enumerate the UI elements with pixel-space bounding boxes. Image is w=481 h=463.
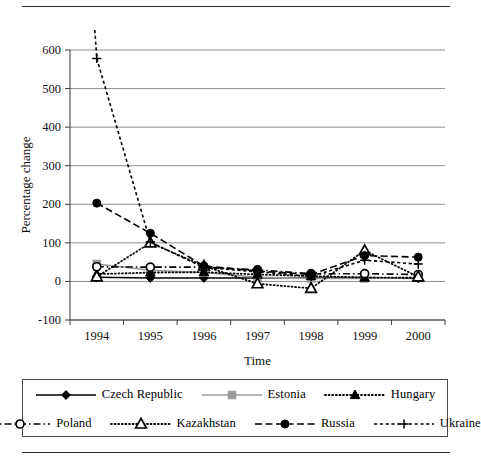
offscale-entry-segments [95,30,97,58]
legend-label: Kazakhstan [177,417,236,430]
legend-symbol-filled-diamond [35,388,97,402]
legend-symbol-open-triangle [110,417,172,431]
legend-label: Poland [56,417,91,430]
legend-item-czech-republic[interactable]: Czech Republic [35,388,183,402]
marker-filled-diamond [61,390,70,399]
marker-filled-circle [281,420,289,428]
bottom-horizontal-rule [22,452,450,453]
series-line [97,203,418,274]
legend-symbol-plus [373,417,435,431]
legend-symbol-open-circle [0,417,51,431]
legend-symbol-filled-square [201,388,263,402]
x-axis-tick-label: 2000 [406,329,431,343]
legend-label: Ukraine [440,417,481,430]
y-axis-tick-label: 0 [55,274,61,288]
chart-legend: Czech RepublicEstoniaHungaryPolandKazakh… [22,379,448,437]
series-ukraine [92,54,423,281]
marker-open-circle [146,263,154,271]
legend-row: PolandKazakhstanRussiaUkraine [23,409,447,438]
legend-symbol-filled-triangle [324,388,386,402]
y-axis-tick-label: 100 [42,236,61,250]
legend-label: Hungary [391,388,435,401]
marker-plus [399,419,408,428]
x-axis-tick-label: 1996 [191,329,216,343]
y-axis-tick-label: 500 [42,82,61,96]
y-axis-tick-label: 400 [42,120,61,134]
x-axis-tick-label: 1998 [299,329,324,343]
ukraine-entry-segment [95,30,97,58]
x-axis-tick-label: 1999 [352,329,377,343]
marker-open-circle [361,270,369,278]
x-axis-tick-label: 1995 [138,329,163,343]
x-axis-title: Time [244,353,271,368]
y-axis-tick-label: -100 [38,313,61,327]
chart-plot-area: -100010020030040050060019941995199619971… [0,14,472,374]
legend-item-russia[interactable]: Russia [254,417,355,431]
marker-filled-circle [93,199,101,207]
y-axis-tick-label: 300 [42,159,61,173]
x-axis-tick-label: 1994 [84,329,110,343]
line-chart-svg: -100010020030040050060019941995199619971… [0,14,472,374]
legend-label: Estonia [268,388,306,401]
y-axis-title: Percentage change [18,136,33,233]
x-axis-tick-label: 1997 [245,329,270,343]
legend-item-kazakhstan[interactable]: Kazakhstan [110,417,236,431]
legend-symbol-filled-circle [254,417,316,431]
legend-item-poland[interactable]: Poland [0,417,92,431]
legend-label: Russia [321,417,355,430]
marker-filled-square [228,391,236,399]
series-kazakhstan [91,237,423,292]
marker-open-circle [16,420,24,428]
legend-item-ukraine[interactable]: Ukraine [373,417,481,431]
legend-item-estonia[interactable]: Estonia [201,388,306,402]
marker-plus [414,259,423,268]
y-axis-tick-label: 600 [42,43,61,57]
top-horizontal-rule [22,6,450,7]
y-axis-tick-label: 200 [42,197,61,211]
series-line [97,58,418,276]
legend-row: Czech RepublicEstoniaHungary [23,380,447,409]
legend-label: Czech Republic [102,388,183,401]
legend-item-hungary[interactable]: Hungary [324,388,435,402]
